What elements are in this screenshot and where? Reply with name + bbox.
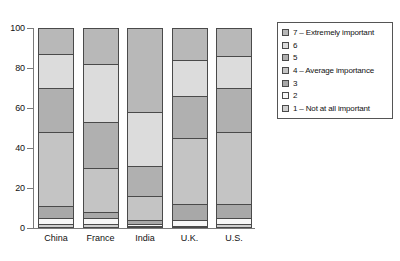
legend-item[interactable]: 4 – Average importance [282,64,388,77]
figure-caption [4,254,396,261]
legend-item[interactable]: 5 [282,51,388,64]
legend-label: 6 [293,41,297,50]
bar-segment[interactable] [38,28,74,54]
bar-segment[interactable] [172,60,208,96]
legend-swatch-5-icon [282,54,289,61]
legend-label: 7 – Extremely important [293,28,374,37]
bar-segment[interactable] [172,138,208,204]
legend-swatch-4-icon [282,67,289,74]
legend-label: 2 [293,91,297,100]
bar-segment[interactable] [127,112,163,166]
legend-item[interactable]: 1 – Not at all important [282,102,388,115]
bar-segment[interactable] [38,224,74,228]
bar-group [38,28,74,228]
bar-segment[interactable] [216,28,252,56]
y-axis-tick-label: 80 [0,64,25,73]
bar-segment[interactable] [216,88,252,132]
x-axis-line [33,228,255,229]
legend-swatch-3-icon [282,80,289,87]
bar-segment[interactable] [172,226,208,228]
bar-segment[interactable] [127,28,163,112]
bar-segment[interactable] [83,64,119,122]
legend-label: 5 [293,53,297,62]
y-axis-tick-label: 100 [0,24,25,33]
legend-item[interactable]: 2 [282,89,388,102]
bar-segment[interactable] [83,168,119,212]
bar-segment[interactable] [83,122,119,168]
bar-segment[interactable] [216,224,252,228]
bar-segment[interactable] [83,224,119,228]
x-axis-tick-label: U.S. [204,233,264,243]
legend-swatch-2-icon [282,92,289,99]
bar-group [172,28,208,228]
y-axis-tick-label: 20 [0,184,25,193]
legend-item[interactable]: 7 – Extremely important [282,26,388,39]
bar-segment[interactable] [216,56,252,88]
bar-segment[interactable] [38,132,74,206]
legend-item[interactable]: 3 [282,77,388,90]
bar-group [216,28,252,228]
bar-segment[interactable] [38,54,74,88]
bar-segment[interactable] [172,28,208,60]
stacked-bar-chart: 020406080100 ChinaFranceIndiaU.K.U.S. 7 … [0,0,400,261]
y-axis-tick-label: 40 [0,144,25,153]
bar-segment[interactable] [216,204,252,218]
plot-area [33,28,255,228]
legend-swatch-1-icon [282,105,289,112]
bar-segment[interactable] [127,226,163,228]
y-axis-tick-label: 0 [0,224,25,233]
bar-segment[interactable] [172,96,208,138]
bar-segment[interactable] [127,196,163,220]
bar-segment[interactable] [127,166,163,196]
legend-label: 4 – Average importance [293,66,374,75]
y-axis-tick-label: 60 [0,104,25,113]
bar-segment[interactable] [216,132,252,204]
y-axis-tick [27,228,33,229]
bar-group [83,28,119,228]
legend-item[interactable]: 6 [282,39,388,52]
legend-swatch-7-icon [282,29,289,36]
bar-segment[interactable] [172,204,208,220]
legend: 7 – Extremely important 6 5 4 – Average … [277,22,393,119]
bar-segment[interactable] [38,88,74,132]
legend-label: 3 [293,79,297,88]
bar-segment[interactable] [83,28,119,64]
legend-label: 1 – Not at all important [293,104,370,113]
bar-group [127,28,163,228]
legend-swatch-6-icon [282,42,289,49]
bar-segment[interactable] [38,206,74,218]
